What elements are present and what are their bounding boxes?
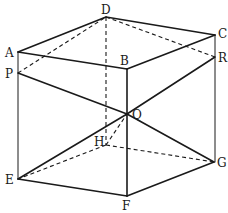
vertex-label-B: B [120, 54, 129, 68]
edge-EQ [18, 114, 127, 179]
vertex-label-C: C [218, 27, 227, 41]
edge-HE-hidden [18, 145, 106, 179]
edge-DR-hidden [106, 17, 215, 57]
edge-HQ-hidden [106, 114, 127, 145]
vertex-label-P: P [5, 67, 13, 81]
edge-EF [18, 179, 127, 196]
vertex-label-E: E [5, 173, 14, 187]
vertex-label-R: R [218, 51, 228, 65]
edge-DC [106, 17, 215, 35]
vertex-label-A: A [4, 46, 14, 60]
edge-AB [18, 52, 127, 69]
edge-PQ [18, 73, 127, 114]
edge-QR [127, 57, 215, 114]
edge-PD-hidden [18, 17, 106, 73]
edge-AD [18, 17, 106, 52]
vertex-label-H: H [94, 135, 104, 149]
prism-diagram: A B C D E F G H P Q R [0, 0, 228, 213]
vertex-label-G: G [217, 156, 227, 170]
vertex-label-D: D [101, 3, 111, 17]
vertex-label-F: F [122, 199, 130, 213]
edge-FG [127, 162, 214, 196]
vertex-label-Q: Q [132, 108, 142, 122]
